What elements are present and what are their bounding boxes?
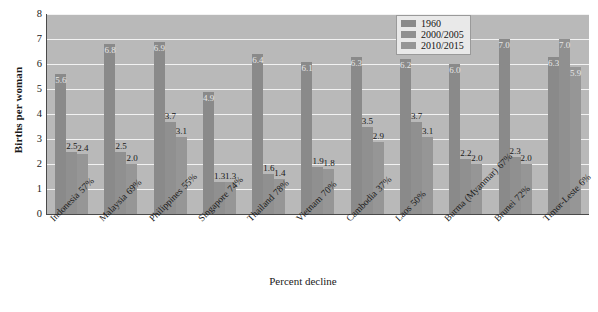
bar-value-label: 2.0 [126, 154, 137, 163]
bar-value-label: 2.3 [510, 147, 521, 156]
bar-wrap: 2.5 [66, 14, 77, 214]
legend-label: 2010/2015 [421, 41, 464, 51]
bar-wrap: 1.3 [214, 14, 225, 214]
bar-wrap: 7.0 [499, 14, 510, 214]
x-tick: Brunei72% [492, 216, 537, 282]
x-axis-tick-labels: Indonesia57%Malaysia69%Philippines55%Sin… [46, 216, 588, 282]
legend-item[interactable]: 2000/2005 [401, 29, 464, 40]
chart-legend: 19602000/20052010/2015 [396, 15, 471, 55]
bar-wrap: 4.9 [203, 14, 214, 214]
bar[interactable] [176, 137, 187, 215]
x-tick: Malaysia69% [97, 216, 142, 282]
bar-wrap: 7.0 [559, 14, 570, 214]
bar[interactable] [548, 57, 559, 215]
bar-value-label: 1.4 [274, 169, 285, 178]
x-tick: Vietnam70% [294, 216, 339, 282]
bar-wrap: 6.9 [154, 14, 165, 214]
bar-value-label: 5.6 [55, 76, 66, 85]
y-tick-label: 8 [20, 9, 42, 20]
x-tick: Thailand78% [245, 216, 290, 282]
bar-value-label: 2.9 [373, 132, 384, 141]
bar-value-label: 2.5 [66, 142, 77, 151]
legend-swatch [401, 20, 416, 27]
legend-item[interactable]: 2010/2015 [401, 40, 464, 51]
bar-value-label: 6.8 [104, 46, 115, 55]
bar-value-label: 1.3 [214, 172, 225, 181]
bar-value-label: 6.4 [252, 56, 263, 65]
bar[interactable] [400, 59, 411, 214]
x-tick: Burma (Myanmar)67% [442, 216, 487, 282]
bar-value-label: 6.2 [400, 61, 411, 70]
x-tick: Indonesia57% [48, 216, 93, 282]
bar-value-label: 2.0 [521, 154, 532, 163]
legend-label: 1960 [421, 19, 441, 29]
bar[interactable] [499, 39, 510, 214]
bar[interactable] [154, 42, 165, 215]
bar-value-label: 1.6 [263, 164, 274, 173]
bar-wrap: 6.4 [252, 14, 263, 214]
legend-swatch [401, 42, 416, 49]
x-tick: Laos50% [393, 216, 438, 282]
bar-value-label: 6.3 [548, 59, 559, 68]
x-tick: Cambodia37% [344, 216, 389, 282]
x-axis-title: Percent decline [0, 275, 598, 287]
bar-value-label: 2.0 [471, 154, 482, 163]
y-axis-tick-labels: 012345678 [20, 14, 42, 214]
bar-value-label: 3.7 [411, 112, 422, 121]
bar-wrap: 5.6 [55, 14, 66, 214]
bar-value-label: 4.9 [203, 94, 214, 103]
bar-value-label: 5.9 [570, 69, 581, 78]
bar[interactable] [301, 62, 312, 215]
bar-value-label: 1.8 [324, 159, 335, 168]
bar-value-label: 6.1 [302, 64, 313, 73]
bar-wrap: 6.1 [301, 14, 312, 214]
bar-group: 7.02.32.0 [499, 14, 532, 214]
bar-value-label: 2.4 [77, 144, 88, 153]
bar-value-label: 3.5 [362, 117, 373, 126]
bar-value-label: 6.0 [449, 66, 460, 75]
bar-chart: Births per woman 012345678 5.62.52.46.82… [0, 0, 598, 312]
y-tick-label: 7 [20, 34, 42, 45]
bar[interactable] [55, 74, 66, 214]
bar-wrap: 6.3 [351, 14, 362, 214]
bar-wrap: 2.3 [510, 14, 521, 214]
legend-label: 2000/2005 [421, 30, 464, 40]
bar[interactable] [351, 57, 362, 215]
bar-value-label: 7.0 [559, 41, 570, 50]
bar-wrap: 6.3 [548, 14, 559, 214]
y-tick-label: 4 [20, 109, 42, 120]
bar-wrap: 2.5 [115, 14, 126, 214]
bar-value-label: 3.1 [422, 127, 433, 136]
bar-wrap: 1.6 [263, 14, 274, 214]
y-tick-label: 6 [20, 59, 42, 70]
bar-wrap: 1.9 [312, 14, 323, 214]
bar-value-label: 1.9 [313, 157, 324, 166]
bar-value-label: 3.7 [165, 112, 176, 121]
y-tick-label: 1 [20, 184, 42, 195]
bar-wrap: 3.7 [165, 14, 176, 214]
x-axis-title-text: Percent decline [269, 275, 337, 287]
bar[interactable] [449, 64, 460, 214]
y-tick-label: 2 [20, 159, 42, 170]
y-tick-label: 0 [20, 209, 42, 220]
y-tick-label: 3 [20, 134, 42, 145]
bar-value-label: 6.3 [351, 59, 362, 68]
bar-value-label: 3.1 [176, 127, 187, 136]
y-tick-label: 5 [20, 84, 42, 95]
x-tick: Philippines55% [147, 216, 192, 282]
bar-wrap: 6.8 [104, 14, 115, 214]
bar[interactable] [104, 44, 115, 214]
bar-value-label: 6.9 [154, 44, 165, 53]
x-tick: Singapore74% [196, 216, 241, 282]
bar-value-label: 2.5 [115, 142, 126, 151]
bar-wrap: 3.5 [362, 14, 373, 214]
bar-value-label: 7.0 [499, 41, 510, 50]
legend-swatch [401, 31, 416, 38]
bar-value-label: 2.2 [460, 149, 471, 158]
x-tick: Timor-Leste6% [541, 216, 586, 282]
bar[interactable] [203, 92, 214, 215]
bar[interactable] [422, 137, 433, 215]
bar[interactable] [252, 54, 263, 214]
legend-item[interactable]: 1960 [401, 18, 464, 29]
